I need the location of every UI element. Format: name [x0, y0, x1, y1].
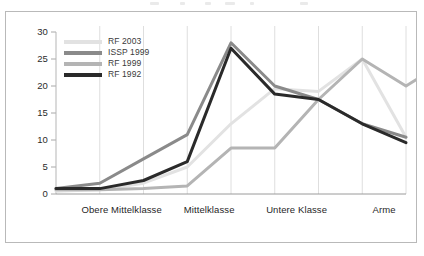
x-axis-category-label: Mittelklasse: [184, 204, 235, 215]
chart-frame: 302520151050 Obere MittelklasseMittelkla…: [5, 11, 417, 243]
y-axis-tick-label: 25: [22, 53, 48, 64]
legend-label: RF 2003: [108, 36, 141, 47]
y-axis-tick-label: 20: [22, 80, 48, 91]
legend-color-swatch: [64, 62, 102, 66]
legend-color-swatch: [64, 73, 102, 77]
legend-label: RF 1992: [108, 69, 141, 80]
y-axis-tick-label: 0: [22, 188, 48, 199]
legend-color-swatch: [64, 51, 102, 55]
y-axis-tick-label: 15: [22, 107, 48, 118]
legend-label: RF 1999: [108, 58, 141, 69]
chart-legend: RF 2003ISSP 1999RF 1999RF 1992: [64, 36, 149, 80]
legend-item: RF 1999: [64, 58, 149, 69]
legend-item: RF 2003: [64, 36, 149, 47]
y-axis-ticks: [51, 32, 56, 194]
legend-item: ISSP 1999: [64, 47, 149, 58]
y-axis-tick-label: 10: [22, 134, 48, 145]
x-axis-category-label: Obere Mittelklasse: [81, 204, 161, 215]
x-axis-category-label: Untere Klasse: [266, 204, 327, 215]
y-axis-tick-label: 30: [22, 26, 48, 37]
legend-item: RF 1992: [64, 69, 149, 80]
x-axis-category-label: Arme: [373, 204, 396, 215]
y-axis-tick-label: 5: [22, 161, 48, 172]
chart-page: 302520151050 Obere MittelklasseMittelkla…: [0, 0, 424, 256]
legend-color-swatch: [64, 40, 102, 44]
legend-label: ISSP 1999: [108, 47, 149, 58]
